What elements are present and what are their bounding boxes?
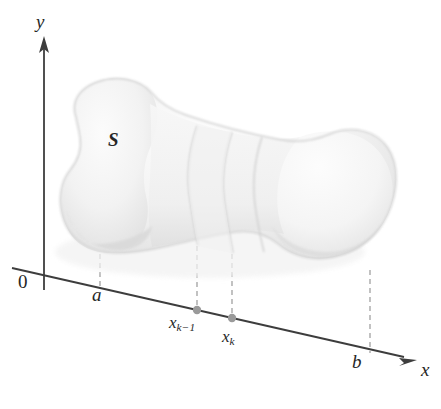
upper-bound-label-b: b	[352, 352, 362, 371]
y-axis-label: y	[36, 12, 44, 31]
slice-left-label-subscript: k−1	[177, 321, 196, 333]
solid-cross-section-illustration	[0, 0, 441, 409]
x-axis-arrowhead	[399, 358, 417, 366]
solid-left-bulb	[63, 78, 158, 253]
slice-left-label-base: x	[169, 313, 177, 332]
point-marker-xk	[228, 314, 236, 322]
x-axis-label: x	[421, 360, 429, 379]
x-axis-line	[12, 268, 404, 357]
slice-left-label: xk−1	[169, 314, 195, 331]
solid-s-body	[55, 78, 396, 278]
point-marker-xk1	[193, 306, 201, 314]
figure-canvas: y x 0 a b S xk−1 xk	[0, 0, 441, 409]
slice-right-label-subscript: k	[230, 335, 235, 347]
lower-bound-label-a: a	[92, 285, 102, 304]
origin-label: 0	[18, 272, 28, 291]
solid-label-s: S	[108, 130, 119, 149]
slice-right-label: xk	[222, 328, 235, 345]
slice-right-label-base: x	[222, 327, 230, 346]
